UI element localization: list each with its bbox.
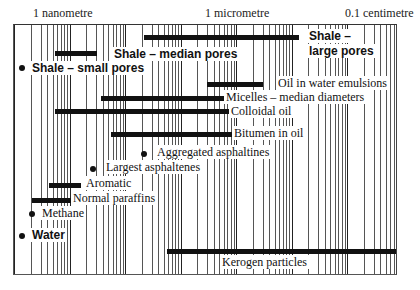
plot-area: Shale – large pores Shale – median pores… <box>13 24 397 275</box>
bar-micelles <box>101 96 225 101</box>
gridline <box>279 25 280 274</box>
gridline <box>152 25 153 274</box>
gridline <box>380 25 381 274</box>
dot-aggregated-asphaltines <box>141 151 147 157</box>
gridline <box>318 25 319 274</box>
gridline <box>390 25 391 274</box>
gridline <box>283 25 284 274</box>
gridline <box>342 25 343 274</box>
gridline <box>335 25 336 274</box>
bar-aromatic <box>49 183 81 188</box>
bar-shale-median-pores <box>55 51 97 56</box>
gridline <box>330 25 331 274</box>
label-micelles: Micelles – median diameters <box>224 90 366 104</box>
label-kerogen-particles: Kerogen particles <box>220 255 309 269</box>
gridline <box>275 25 276 274</box>
label-oil-water-emulsions: Oil in water emulsions <box>276 76 389 90</box>
size-range-chart: 1 nanometre 1 micrometre 0.1 centimetre … <box>0 0 420 290</box>
label-bitumen-in-oil: Bitumen in oil <box>232 126 305 140</box>
bar-normal-paraffins <box>32 198 72 203</box>
dot-largest-asphaltenes <box>90 166 96 172</box>
label-shale-median-pores: Shale – median pores <box>112 47 239 61</box>
label-largest-asphaltenes: Largest asphaltenes <box>104 160 202 174</box>
gridline <box>292 25 293 274</box>
bar-colloidal-oil <box>55 109 238 114</box>
label-aromatic: Aromatic <box>84 176 133 190</box>
gridline <box>374 25 375 274</box>
label-aggregated-asphaltines: Aggregated asphaltines <box>155 145 271 159</box>
tick-label-centimetre: 0.1 centimetre <box>345 6 414 21</box>
bar-shale-large-pores <box>144 35 299 40</box>
label-methane: Methane <box>40 206 86 220</box>
gridline <box>308 25 309 274</box>
dot-shale-small-pores <box>19 65 25 71</box>
gridline <box>364 25 365 274</box>
bar-kerogen-particles <box>167 249 396 254</box>
tick-label-micrometre: 1 micrometre <box>205 6 269 21</box>
gridline <box>394 25 395 274</box>
dot-methane <box>29 211 35 217</box>
label-shale-large-pores-2: large pores <box>307 44 376 58</box>
dot-water <box>19 233 25 239</box>
label-colloidal-oil: Colloidal oil <box>229 104 293 118</box>
gridline <box>286 25 287 274</box>
gridline <box>347 25 348 274</box>
gridline <box>325 25 326 274</box>
gridline <box>345 25 346 274</box>
gridline <box>386 25 387 274</box>
gridline <box>338 25 339 274</box>
label-shale-small-pores: Shale – small pores <box>30 61 146 75</box>
gridline <box>289 25 290 274</box>
label-water: Water <box>30 228 67 242</box>
bar-oil-water-emulsions <box>207 82 263 87</box>
tick-label-nanometre: 1 nanometre <box>33 6 93 21</box>
gridline <box>14 25 15 274</box>
bar-bitumen-in-oil <box>111 132 235 137</box>
label-shale-large-pores-1: Shale – <box>307 29 353 43</box>
label-normal-paraffins: Normal paraffins <box>71 191 157 205</box>
